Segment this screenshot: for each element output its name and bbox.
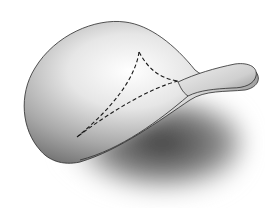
saddle-surface-illustration [0, 0, 278, 223]
saddle-diagram [0, 0, 278, 223]
